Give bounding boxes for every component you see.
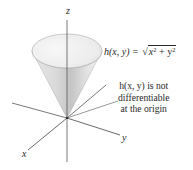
radicand-y-exp: 2	[172, 46, 175, 53]
annotation-line-2: differentiable	[118, 92, 170, 104]
z-axis-label: z	[66, 6, 70, 16]
function-formula: h(x, y) = √x2 + y2	[104, 47, 176, 57]
x-axis-front	[28, 118, 67, 150]
radicand-plus-y: + y	[157, 46, 173, 57]
y-axis-back	[12, 103, 67, 118]
annotation-line-1: h(x, y) is not	[118, 80, 170, 92]
axes-front	[28, 118, 120, 150]
origin-point	[66, 117, 68, 119]
square-root: √x2 + y2	[141, 47, 176, 57]
diagram-canvas: z y x h(x, y) = √x2 + y2 h(x, y) is not …	[0, 0, 193, 170]
x-axis-label: x	[22, 149, 26, 159]
formula-lhs: h(x, y) =	[104, 46, 139, 57]
y-axis-front	[67, 118, 120, 135]
y-axis-label: y	[122, 133, 126, 143]
differentiability-annotation: h(x, y) is not differentiable at the ori…	[118, 80, 170, 115]
annotation-line-3: at the origin	[118, 103, 170, 115]
